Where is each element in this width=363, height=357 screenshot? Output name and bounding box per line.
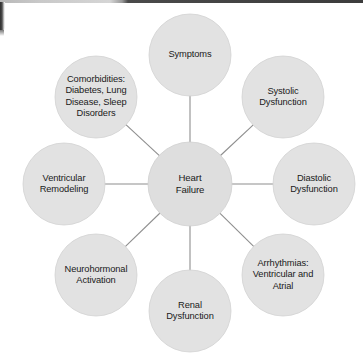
- node-circle-ventricular-remodeling[interactable]: [23, 143, 105, 225]
- connector-heart-failure-to-arrhythmias: [219, 213, 254, 247]
- figure-canvas: SymptomsSystolic DysfunctionDiastolic Dy…: [0, 0, 363, 357]
- node-circle-systolic-dysfunction[interactable]: [242, 56, 324, 138]
- node-circle-symptoms[interactable]: [149, 14, 231, 96]
- radial-diagram: [0, 0, 363, 357]
- node-circle-heart-failure[interactable]: [148, 142, 232, 226]
- connector-heart-failure-to-neurohormonal-activation: [125, 213, 161, 248]
- connector-heart-failure-to-comorbidities: [125, 124, 160, 156]
- node-circle-arrhythmias[interactable]: [242, 234, 324, 316]
- node-circle-neurohormonal-activation[interactable]: [55, 234, 137, 316]
- node-circle-comorbidities[interactable]: [55, 56, 137, 138]
- node-circle-group: [23, 14, 355, 352]
- node-circle-renal-dysfunction[interactable]: [149, 270, 231, 352]
- connector-heart-failure-to-systolic-dysfunction: [220, 124, 254, 156]
- node-circle-diastolic-dysfunction[interactable]: [273, 143, 355, 225]
